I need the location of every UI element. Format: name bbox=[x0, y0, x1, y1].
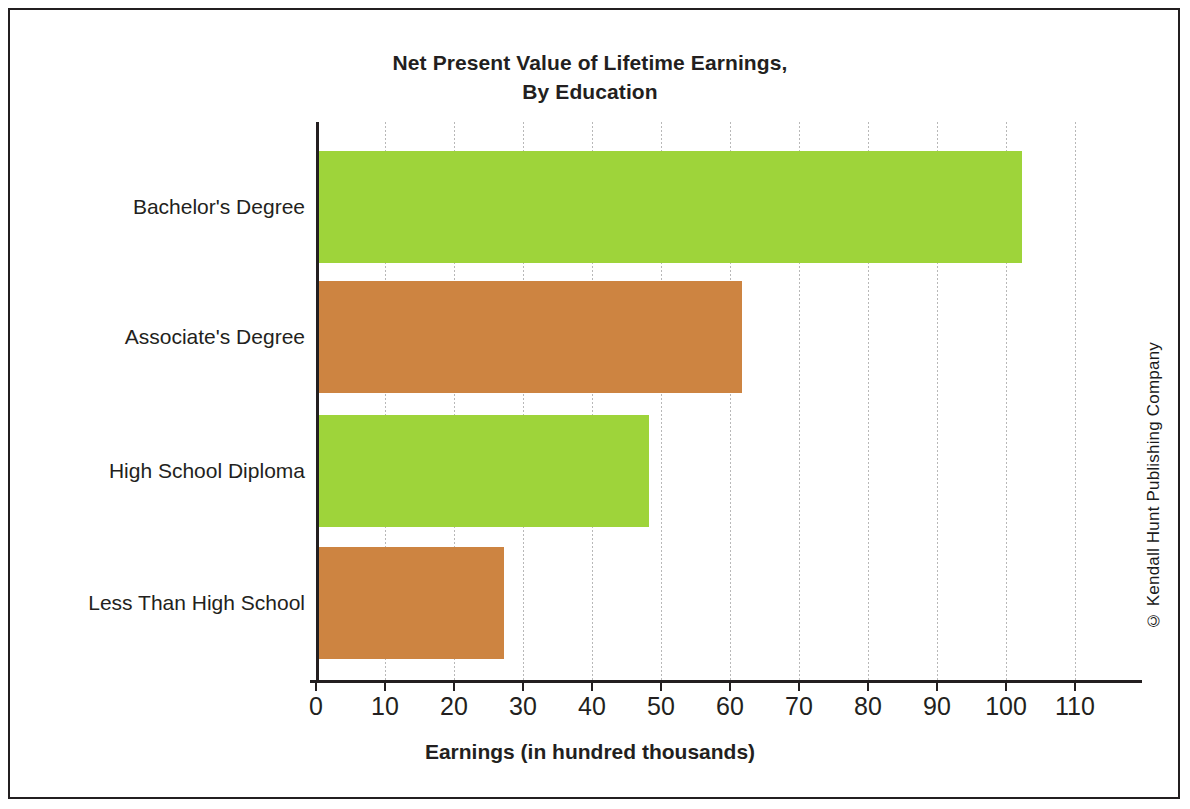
x-axis-tick-label: 100 bbox=[985, 692, 1027, 721]
plot-area bbox=[316, 122, 1075, 680]
x-axis-tick-label: 20 bbox=[440, 692, 468, 721]
x-axis-tick bbox=[798, 680, 800, 691]
bar bbox=[318, 415, 649, 527]
x-axis-tick bbox=[936, 680, 938, 691]
x-axis-tick bbox=[729, 680, 731, 691]
x-axis-tick-label: 90 bbox=[923, 692, 951, 721]
bar bbox=[318, 151, 1022, 263]
x-axis-tick-label: 70 bbox=[785, 692, 813, 721]
x-axis-tick-label: 80 bbox=[854, 692, 882, 721]
x-axis-tick-label: 50 bbox=[647, 692, 675, 721]
x-axis-tick-label: 110 bbox=[1055, 692, 1095, 721]
bar-row bbox=[318, 547, 1075, 659]
gridline bbox=[1075, 122, 1076, 680]
bar-row bbox=[318, 151, 1075, 263]
category-axis-labels: Bachelor's DegreeAssociate's DegreeHigh … bbox=[20, 122, 305, 680]
x-axis-tick bbox=[453, 680, 455, 691]
bar-series bbox=[318, 122, 1075, 680]
x-axis-tick bbox=[867, 680, 869, 691]
copyright-notice: © Kendall Hunt Publishing Company bbox=[1144, 306, 1164, 666]
chart-title-line-1: Net Present Value of Lifetime Earnings, bbox=[393, 51, 788, 74]
x-axis-tick bbox=[522, 680, 524, 691]
chart-title: Net Present Value of Lifetime Earnings, … bbox=[10, 48, 1170, 106]
category-axis-label: Bachelor's Degree bbox=[20, 195, 305, 219]
x-axis-tick bbox=[1005, 680, 1007, 691]
category-axis-label: Associate's Degree bbox=[20, 325, 305, 349]
x-axis-tick-label: 10 bbox=[371, 692, 399, 721]
x-axis-tick-labels: 0102030405060708090100110 bbox=[316, 692, 1116, 726]
x-axis-tick bbox=[660, 680, 662, 691]
y-axis-line bbox=[316, 122, 319, 680]
bar bbox=[318, 547, 504, 659]
bar bbox=[318, 281, 742, 393]
x-axis-tick-label: 40 bbox=[578, 692, 606, 721]
copyright-text: © Kendall Hunt Publishing Company bbox=[1144, 342, 1164, 630]
x-axis-tick-label: 0 bbox=[309, 692, 323, 721]
x-axis-tick bbox=[1074, 680, 1076, 691]
chart-title-line-2: By Education bbox=[10, 77, 1170, 106]
category-axis-label: High School Diploma bbox=[20, 459, 305, 483]
x-axis-tick bbox=[315, 680, 317, 691]
bar-row bbox=[318, 281, 1075, 393]
x-axis-tick bbox=[591, 680, 593, 691]
x-axis-tick bbox=[384, 680, 386, 691]
x-axis-tick-label: 30 bbox=[509, 692, 537, 721]
category-axis-label: Less Than High School bbox=[20, 591, 305, 615]
bar-row bbox=[318, 415, 1075, 527]
chart-figure: Net Present Value of Lifetime Earnings, … bbox=[8, 8, 1180, 799]
x-axis-title: Earnings (in hundred thousands) bbox=[10, 740, 1170, 764]
x-axis-tick-label: 60 bbox=[716, 692, 744, 721]
x-axis-line bbox=[310, 680, 1142, 683]
